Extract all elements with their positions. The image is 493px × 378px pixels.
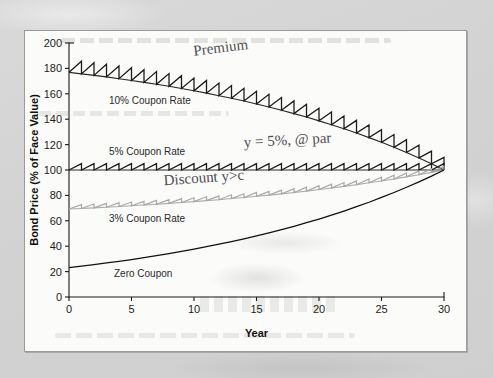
chart-panel: 020406080100120140160180200051015202530Y…: [24, 30, 467, 352]
y-tick-label: 0: [56, 291, 62, 303]
y-tick-label: 60: [50, 215, 62, 227]
y-tick-label: 140: [44, 113, 62, 125]
y-tick-label: 200: [44, 37, 62, 49]
bond-price-chart: 020406080100120140160180200051015202530Y…: [25, 31, 466, 351]
x-tick-label: 30: [438, 303, 450, 315]
handwritten-note-1: Premium: [192, 36, 249, 59]
y-tick-label: 180: [44, 62, 62, 74]
x-tick-label: 15: [250, 303, 262, 315]
x-tick-label: 5: [128, 303, 134, 315]
curve-label-3: 3% Coupon Rate: [109, 213, 186, 224]
x-tick-label: 0: [66, 303, 72, 315]
series-envelope-3: [69, 170, 444, 209]
y-tick-label: 80: [50, 189, 62, 201]
x-axis-label: Year: [245, 327, 269, 339]
y-tick-label: 160: [44, 88, 62, 100]
series-2: [69, 164, 444, 170]
curve-label-4: Zero Coupon: [114, 268, 172, 279]
curve-label-2: 5% Coupon Rate: [109, 146, 186, 157]
y-tick-label: 120: [44, 139, 62, 151]
y-axis-label: Bond Price (% of Face Value): [28, 94, 40, 246]
x-tick-label: 20: [313, 303, 325, 315]
curve-label-1: 10% Coupon Rate: [109, 95, 191, 106]
y-tick-label: 20: [50, 266, 62, 278]
series-curves: [69, 61, 444, 268]
y-tick-label: 100: [44, 164, 62, 176]
x-tick-label: 25: [375, 303, 387, 315]
axes: 020406080100120140160180200051015202530Y…: [28, 37, 450, 339]
x-tick-label: 10: [188, 303, 200, 315]
series-3: [69, 166, 444, 209]
handwritten-note-2: y = 5%, @ par: [243, 130, 331, 151]
y-tick-label: 40: [50, 240, 62, 252]
